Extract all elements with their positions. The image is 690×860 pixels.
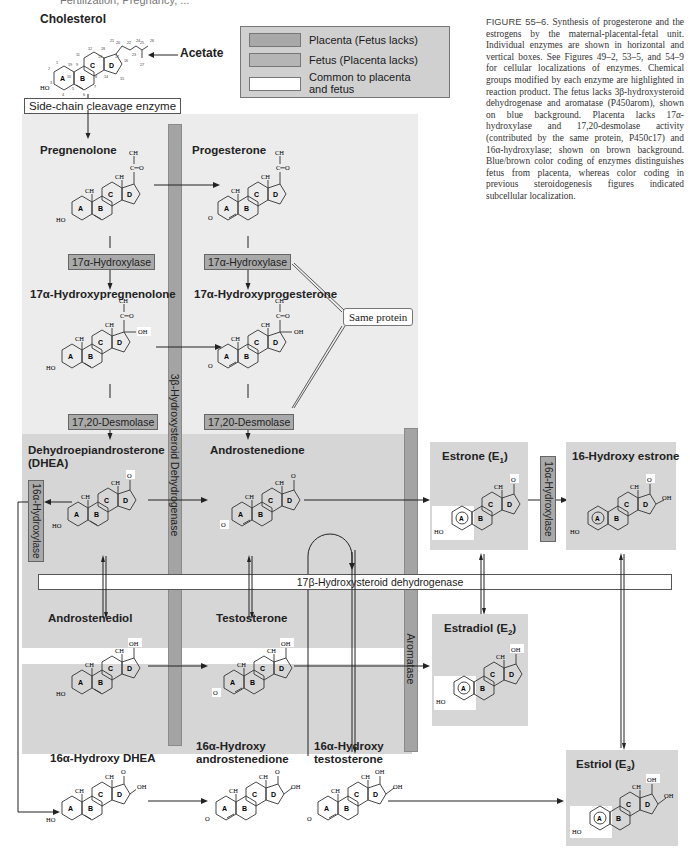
androstenediol-structure: A B C D HO CH CH OH [44,636,164,706]
svg-text:B: B [244,353,249,360]
legend: Placenta (Fetus lacks) Fetus (Placenta l… [240,26,450,98]
svg-text:C: C [254,339,259,346]
enzyme-side-chain-cleavage[interactable]: Side-chain cleavage enzyme [24,98,181,114]
svg-text:D: D [279,665,284,672]
svg-text:A: A [324,805,329,812]
svg-text:CH: CH [245,493,254,500]
svg-text:19: 19 [68,63,72,67]
svg-text:4: 4 [62,93,64,97]
svg-text:A: A [224,205,229,212]
svg-text:CH: CH [115,647,124,654]
svg-text:O: O [291,472,296,479]
svg-text:9: 9 [76,63,78,67]
cholesterol-structure: A B C D HO 211910 3456 78911 12181314 15… [36,28,156,100]
svg-text:C═O: C═O [130,164,144,171]
svg-text:CH: CH [229,787,238,794]
svg-text:B: B [242,805,247,812]
svg-text:CH: CH [630,483,639,490]
svg-text:HO: HO [56,690,66,697]
enzyme-3b-hsd-bar[interactable]: 3β-Hydroxysteroid Dehydrogenase [168,124,182,746]
reversible-andro-testosterone [246,554,256,620]
svg-text:D: D [123,497,128,504]
svg-text:CH: CH [275,150,284,156]
svg-text:D: D [117,791,122,798]
legend-swatch-placenta [249,33,301,47]
svg-text:C: C [490,671,495,678]
svg-text:B: B [258,511,263,518]
cholesterol-title: Cholesterol [40,12,106,26]
caption-label: FIGURE 55–6. [486,16,549,27]
androstenedione-title: Androstenedione [210,444,305,456]
enzyme-aromatase-bar[interactable]: Aromatase [404,428,418,752]
enzyme-aromatase-label: Aromatase [405,634,417,685]
svg-text:CH: CH [105,773,114,780]
arrow-preg-to-prog [152,180,222,190]
svg-text:D: D [127,665,132,672]
svg-text:C: C [108,665,113,672]
svg-text:A: A [238,511,243,518]
hydroxy-androstenedione-title: 16α-Hydroxy androstenedione [196,740,289,766]
svg-text:A: A [224,353,229,360]
estrone-title: Estrone (E1) [442,450,508,465]
svg-text:10: 10 [67,75,71,79]
legend-item-placenta: Placenta (Fetus lacks) [249,33,418,47]
svg-text:CH: CH [119,297,128,304]
svg-text:HO: HO [46,364,56,371]
enzyme-3b-hsd-label: 3β-Hydroxysteroid Dehydrogenase [169,374,181,536]
svg-text:HO: HO [570,528,580,535]
arrow-dhea-to-andro [146,495,210,505]
svg-text:OH: OH [129,640,139,647]
enzyme-desmolase-right[interactable]: 17,20-Desmolase [204,414,294,430]
reversible-dhea-androstenediol [100,554,110,620]
svg-text:B: B [88,353,93,360]
svg-text:CH: CH [361,773,370,780]
svg-text:A: A [230,679,235,686]
svg-text:B: B [98,205,103,212]
svg-text:OH: OH [511,646,521,653]
svg-text:CH: CH [231,187,240,194]
svg-text:A: A [78,679,83,686]
svg-text:A: A [461,685,466,692]
figure-caption: FIGURE 55–6. Synthesis of progesterone a… [486,16,684,203]
enzyme-17a-hydroxylase-right[interactable]: 17α-Hydroxylase [204,254,291,270]
legend-swatch-common [249,77,301,91]
legend-swatch-fetus [249,53,301,67]
svg-text:B: B [344,805,349,812]
svg-text:B: B [614,515,619,522]
svg-text:A: A [74,511,79,518]
svg-text:CH: CH [105,321,114,328]
svg-text:20: 20 [116,41,120,45]
hydroxy-testosterone-title: 16α-Hydroxy testosterone [314,740,384,766]
svg-text:B: B [94,511,99,518]
svg-text:D: D [373,791,378,798]
hydroxy-estrone-title: 16-Hydroxy estrone [572,450,679,462]
svg-text:C: C [624,501,629,508]
enzyme-desmolase-left[interactable]: 17,20-Desmolase [68,414,158,430]
svg-text:HO: HO [46,816,56,823]
svg-text:C: C [354,791,359,798]
svg-text:O: O [213,689,218,696]
svg-text:A: A [78,205,83,212]
svg-text:OH: OH [138,328,148,335]
svg-text:O: O [205,815,210,822]
svg-text:A: A [68,805,73,812]
svg-text:22: 22 [127,41,131,45]
svg-text:2: 2 [48,67,50,71]
svg-text:CH: CH [275,479,284,486]
same-protein-label: Same protein [343,308,413,326]
svg-text:23: 23 [132,53,136,57]
svg-text:O: O [121,768,126,775]
svg-text:A: A [597,815,602,822]
enzyme-17a-hydroxylase-left[interactable]: 17α-Hydroxylase [68,254,155,270]
svg-text:OH: OH [137,783,147,790]
hydroxy-estrone-structure: A B C D HO CH O OH [566,466,676,550]
svg-text:CH: CH [275,297,284,304]
svg-text:B: B [88,805,93,812]
svg-text:C: C [98,791,103,798]
svg-text:25: 25 [140,41,144,45]
svg-text:3: 3 [50,81,52,85]
page-header-cut: Fertilization, Pregnancy, ... [60,0,189,6]
svg-text:D: D [643,501,648,508]
svg-text:27: 27 [140,63,144,67]
estradiol-structure: A B C D HO CH OH [432,640,532,724]
